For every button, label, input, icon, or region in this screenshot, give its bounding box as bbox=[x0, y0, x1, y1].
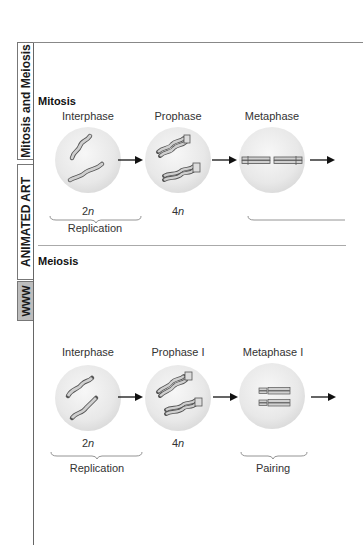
replication-bracket bbox=[50, 216, 141, 223]
meiosis-interphase-cell bbox=[55, 365, 121, 431]
cell-icon bbox=[55, 365, 121, 431]
mitosis-metaphase-cell bbox=[239, 127, 305, 193]
diagram-graphics bbox=[0, 0, 363, 552]
pairing-bracket bbox=[241, 452, 307, 459]
cell-icon bbox=[145, 127, 211, 193]
chromosome-icon bbox=[259, 400, 290, 407]
meiosis-metaphase-cell bbox=[239, 363, 305, 429]
cell-icon bbox=[239, 363, 305, 429]
chromosome-icon bbox=[259, 388, 290, 395]
continuation-bracket bbox=[248, 216, 345, 220]
meiosis-prophase-cell bbox=[145, 365, 211, 431]
mitosis-interphase-cell bbox=[55, 127, 121, 193]
mitosis-prophase-cell bbox=[145, 127, 211, 193]
replication-bracket bbox=[51, 452, 142, 459]
